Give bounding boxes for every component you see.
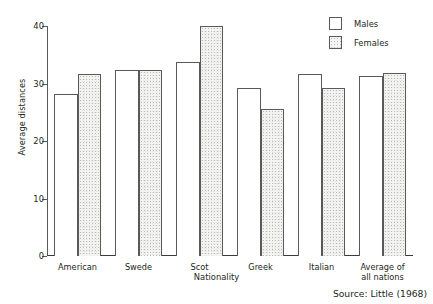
bar-female-5: [383, 73, 407, 256]
bar-male-3: [237, 88, 261, 256]
bar-female-1: [139, 70, 163, 256]
legend-label-females: Females: [354, 38, 389, 48]
y-tick-0: 0: [47, 256, 48, 257]
bar-female-2: [200, 26, 224, 256]
legend-item-males: Males: [329, 14, 425, 33]
bar-female-0: [78, 74, 102, 256]
x-group-label-2: Scot: [169, 262, 230, 272]
bar-male-1: [115, 70, 139, 256]
bars-container: [47, 26, 413, 256]
x-group-label-1: Swede: [108, 262, 169, 272]
bar-male-5: [359, 76, 383, 256]
bar-chart-figure: Average distances 403020100 AmericanSwed…: [0, 0, 433, 304]
x-group-label-4: Italian: [291, 262, 352, 272]
legend-swatch-males-icon: [329, 17, 342, 30]
bar-male-4: [298, 74, 322, 256]
y-tick-label: 30: [33, 79, 44, 89]
y-axis-title: Average distances: [17, 47, 27, 187]
legend-swatch-females-icon: [329, 36, 342, 49]
x-axis-title: Nationality: [0, 272, 433, 282]
bar-male-2: [176, 62, 200, 256]
x-group-label-3: Greek: [230, 262, 291, 272]
y-tick-label: 0: [39, 251, 44, 261]
x-group-label-0: American: [47, 262, 108, 272]
source-note: Source: Little (1968): [333, 288, 427, 299]
bar-female-3: [261, 109, 285, 256]
chart-legend: Males Females: [329, 14, 425, 52]
y-tick-label: 40: [33, 21, 44, 31]
bar-male-0: [54, 94, 78, 256]
legend-item-females: Females: [329, 33, 425, 52]
bar-female-4: [322, 88, 346, 256]
plot-area: 403020100: [47, 26, 413, 256]
legend-label-males: Males: [354, 19, 378, 29]
y-tick-label: 20: [33, 136, 44, 146]
y-tick-label: 10: [33, 194, 44, 204]
